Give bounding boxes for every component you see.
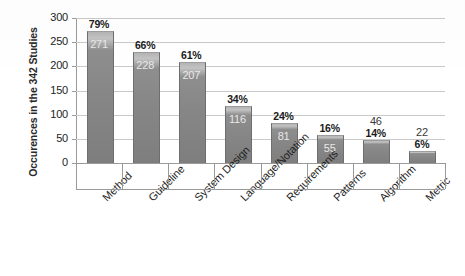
category-separator <box>214 163 215 189</box>
bar-chart: Occurences in the 342 Studies 79%27166%2… <box>0 0 465 276</box>
y-axis-tick-label: 100 <box>34 108 68 120</box>
x-axis-category-label: Guideline <box>146 163 187 204</box>
y-axis-tick-label: 200 <box>34 59 68 71</box>
bar-value-label: 46 <box>354 115 398 127</box>
y-axis-tick <box>72 91 76 92</box>
y-axis-tick <box>72 115 76 116</box>
category-separator <box>168 163 169 189</box>
bar <box>363 140 390 163</box>
bar-percent-label: 66% <box>123 39 167 51</box>
y-axis-tick <box>72 66 76 67</box>
bar-value-label: 271 <box>77 38 121 50</box>
x-axis-category-label: Patterns <box>331 167 368 204</box>
bar-percent-label: 34% <box>215 93 259 105</box>
x-axis-category-label: Method <box>100 169 134 203</box>
bar <box>87 31 114 163</box>
category-separator <box>445 163 446 189</box>
y-axis-tick-label: 300 <box>34 11 68 23</box>
y-axis-tick-label: 250 <box>34 35 68 47</box>
category-separator <box>122 163 123 189</box>
y-axis-tick <box>72 42 76 43</box>
bar-value-label: 207 <box>169 69 213 81</box>
category-separator <box>76 163 77 189</box>
category-separator <box>261 163 262 189</box>
bar-percent-label: 16% <box>308 122 352 134</box>
bar <box>409 151 436 163</box>
category-separator <box>353 163 354 189</box>
y-axis-tick-label: 150 <box>34 84 68 96</box>
gridline <box>76 18 445 19</box>
x-axis-category-label: Algorithm <box>377 163 418 204</box>
bar-value-label: 22 <box>400 126 444 138</box>
y-axis-tick-label: 50 <box>34 132 68 144</box>
category-axis-baseline <box>76 189 445 190</box>
bar-percent-label: 79% <box>77 18 121 30</box>
category-separator <box>307 163 308 189</box>
bar-percent-label: 6% <box>400 138 444 150</box>
bar-value-label: 228 <box>123 59 167 71</box>
gridline <box>76 91 445 92</box>
bar-percent-label: 61% <box>169 49 213 61</box>
bar-percent-label: 14% <box>354 127 398 139</box>
bar-value-label: 116 <box>215 113 259 125</box>
y-axis-tick-label: 0 <box>34 156 68 168</box>
plot-area: 79%27166%22861%20734%11624%8116%5514%466… <box>76 18 445 163</box>
bar-percent-label: 24% <box>262 110 306 122</box>
category-separator <box>399 163 400 189</box>
y-axis-tick <box>72 18 76 19</box>
y-axis-tick <box>72 139 76 140</box>
